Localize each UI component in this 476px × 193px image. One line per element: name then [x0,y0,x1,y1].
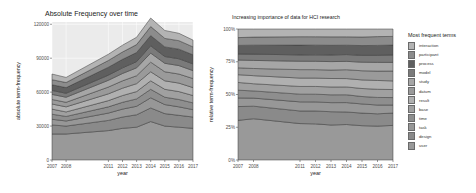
area-process [238,45,393,55]
x-tick-label: 2013 [131,164,142,169]
x-tick-label: 2011 [103,164,113,169]
legend-label: model [419,70,430,75]
x-tick-label: 2012 [117,164,128,169]
legend-swatch [408,51,415,59]
y-tick-label: 90000 [36,56,49,61]
legend-item-base: base [408,105,476,114]
legend-item-participant: participant [408,50,476,59]
legend-swatch [408,42,415,50]
x-tick-label: 2012 [310,164,321,169]
x-tick-label: 2008 [61,164,72,169]
y-tick-label: 30000 [36,124,49,129]
area-interaction [238,29,393,38]
area-participant [238,36,393,45]
legend-label: task [419,125,427,130]
legend-swatch [408,114,415,122]
y-tick-label: 100% [223,27,235,32]
legend-swatch [408,69,415,77]
x-axis-title: year [117,170,128,176]
x-tick-label: 2016 [174,164,185,169]
legend-item-task: task [408,123,476,132]
x-tick-label: 2016 [372,164,383,169]
legend-label: interaction [419,43,438,48]
legend-swatch [408,87,415,95]
legend-swatch [408,78,415,86]
legend-item-process: process [408,59,476,68]
legend-item-user: user [408,141,476,150]
legend-swatch [408,132,415,140]
x-axis-title: year [310,170,321,176]
legend-label: participant [419,52,438,57]
y-tick-label: 60000 [36,90,49,95]
y-tick-label: 0% [228,158,235,163]
legend-label: study [419,79,429,84]
x-tick-label: 2014 [341,164,352,169]
legend-swatch [408,96,415,104]
legend-label: base [419,107,428,112]
left-chart-panel: 0300006000090000120000200720082011201220… [15,18,199,176]
y-axis-title: absolute term-frequency [15,62,21,120]
x-tick-label: 2013 [326,164,337,169]
x-tick-label: 2008 [248,164,259,169]
legend-label: result [419,98,429,103]
charts-canvas: 0300006000090000120000200720082011201220… [0,0,476,193]
legend-label: process [419,61,434,66]
x-tick-label: 2014 [146,164,157,169]
legend-item-time: time [408,114,476,123]
legend-item-design: design [408,132,476,141]
x-tick-label: 2007 [47,164,58,169]
legend-swatch [408,142,415,150]
y-tick-label: 50% [226,92,235,97]
x-tick-label: 2017 [388,164,399,169]
legend-item-study: study [408,77,476,86]
y-tick-label: 75% [226,59,235,64]
y-tick-label: 25% [226,125,235,130]
y-tick-label: 0 [46,158,49,163]
legend-swatch [408,123,415,131]
legend-label: design [419,134,431,139]
legend-label: datum [419,89,431,94]
legend-swatch [408,105,415,113]
legend-label: user [419,143,427,148]
x-tick-label: 2011 [295,164,305,169]
legend-items: interactionparticipantprocessmodelstudyd… [408,41,476,150]
y-axis-title: relative term-frequency [208,67,214,122]
x-tick-label: 2015 [160,164,171,169]
right-chart-panel: 0%25%50%75%100%2007200820112012201320142… [208,27,399,176]
y-tick-label: 120000 [34,22,50,27]
x-tick-label: 2017 [188,164,199,169]
legend-title: Most frequent terms [408,32,476,38]
legend-swatch [408,60,415,68]
legend-label: time [419,116,427,121]
legend-item-result: result [408,96,476,105]
legend-item-datum: datum [408,86,476,95]
x-tick-label: 2015 [357,164,368,169]
legend-item-interaction: interaction [408,41,476,50]
x-tick-label: 2007 [233,164,244,169]
legend: Most frequent terms interactionparticipa… [408,32,476,150]
legend-item-model: model [408,68,476,77]
